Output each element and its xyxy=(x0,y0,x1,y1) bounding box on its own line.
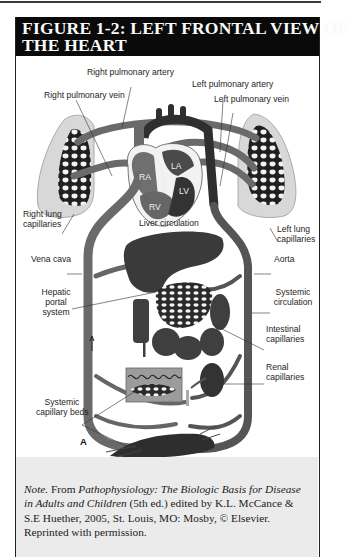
figure-note: Note. From Pathophysiology: The Biologic… xyxy=(16,457,318,557)
label-right-pulmonary-artery: Right pulmonary artery xyxy=(87,67,174,77)
liver xyxy=(124,232,224,293)
note-prefix: Note. xyxy=(24,483,48,495)
figure-title-line-2: THE HEART xyxy=(22,37,319,54)
label-right-ventricle: RV xyxy=(149,202,161,212)
label-left-atrium: LA xyxy=(171,161,182,171)
figure-box: FIGURE 1-2: LEFT FRONTAL VIEW OF THE HEA… xyxy=(15,17,320,557)
label-left-ventricle: LV xyxy=(179,186,189,196)
circulation-diagram: Right pulmonary artery Left pulmonary ar… xyxy=(16,56,318,457)
label-liver-circulation: Liver circulation xyxy=(139,218,199,228)
note-from: From xyxy=(48,483,78,495)
panel-letter: A xyxy=(80,437,87,447)
portal-capillaries xyxy=(156,282,212,328)
left-lung xyxy=(238,114,296,218)
label-right-pulmonary-vein: Right pulmonary vein xyxy=(44,90,125,100)
label-left-lung-capillaries: Left lung capillaries xyxy=(277,224,315,244)
label-aorta: Aorta xyxy=(274,254,295,264)
label-hepatic-portal-system: Hepatic portal system xyxy=(38,287,74,317)
figure-title: FIGURE 1-2: LEFT FRONTAL VIEW OF THE HEA… xyxy=(16,17,319,56)
label-intestinal-capillaries: Intestinal capillaries xyxy=(266,324,304,344)
label-right-lung-capillaries: Right lung capillaries xyxy=(23,209,62,229)
label-systemic-circulation: Systemic circulation xyxy=(270,287,316,307)
capillary-bed-inset xyxy=(126,368,182,402)
label-renal-capillaries: Renal capillaries xyxy=(266,362,304,382)
label-systemic-capillary-beds: Systemic capillary beds xyxy=(36,397,88,417)
right-lung xyxy=(37,115,94,217)
label-left-pulmonary-vein: Left pulmonary vein xyxy=(214,94,289,104)
label-left-pulmonary-artery: Left pulmonary artery xyxy=(192,79,273,89)
label-right-atrium: RA xyxy=(139,172,151,182)
label-vena-cava: Vena cava xyxy=(31,254,71,264)
top-page-rule xyxy=(0,1,321,3)
